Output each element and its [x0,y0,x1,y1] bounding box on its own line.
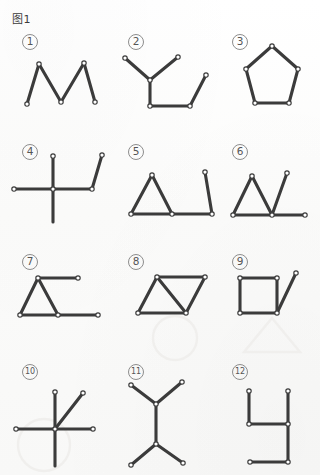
vertex-node [303,213,307,217]
match-stick [246,46,272,69]
vertex-node [231,213,235,217]
vertex-node [100,153,104,157]
vertex-node [12,187,16,191]
match-stick [252,176,272,215]
vertex-node [238,276,242,280]
vertex-node [294,271,298,275]
figure-item-9 [238,271,298,315]
vertex-node [93,100,97,104]
vertex-node [129,383,133,387]
vertex-node [204,73,208,77]
match-stick [246,69,255,103]
vertex-node [286,460,290,464]
vertex-node [123,56,127,60]
vertex-node [14,427,18,431]
match-stick [84,63,95,102]
vertex-node [59,100,63,104]
figure-item-7 [18,276,100,317]
match-stick [61,63,84,102]
vertex-node [18,313,22,317]
match-stick [27,64,39,104]
match-stick [272,46,298,69]
vertex-node [129,212,133,216]
vertex-node [91,427,95,431]
figure-label-10: 10 [22,364,38,380]
vertex-node [210,212,214,216]
figure-item-5 [129,170,214,216]
vertex-node [203,170,207,174]
match-stick [38,278,58,315]
vertex-node [36,276,40,280]
match-stick [20,278,38,315]
vertex-node [188,104,192,108]
match-stick [289,69,298,103]
match-stick [156,444,183,463]
match-stick [150,57,178,80]
vertex-node [253,101,257,105]
match-stick [131,444,156,465]
vertex-node [287,101,291,105]
vertex-node [238,311,242,315]
match-stick [277,273,296,313]
figure-label-8: 8 [128,254,144,270]
vertex-node [25,102,29,106]
vertex-node [170,212,174,216]
page-title: 图1 [12,10,31,26]
match-stick [205,172,212,214]
vertex-node [181,461,185,465]
figure-label-11: 11 [128,364,144,380]
vertex-node [82,61,86,65]
figure-label-1: 1 [22,34,38,50]
vertex-node [154,442,158,446]
figure-label-5: 5 [128,144,144,160]
vertex-node [203,275,207,279]
vertex-node [154,402,158,406]
figure-item-10 [14,390,95,466]
figure-item-6 [231,171,307,217]
vertex-node [296,67,300,71]
figure-item-1 [25,61,97,106]
vertex-node [148,78,152,82]
vertex-node [247,389,251,393]
figure-label-7: 7 [22,254,38,270]
vertex-node [148,104,152,108]
match-stick [233,176,252,215]
vertex-node [286,422,290,426]
match-stick [157,277,186,313]
vertex-node [176,55,180,59]
vertex-node [81,391,85,395]
match-stick [152,175,172,214]
vertex-node [90,187,94,191]
vertex-node [270,44,274,48]
match-stick [125,58,150,80]
match-stick [131,175,152,214]
match-stick [156,382,182,404]
figure-label-2: 2 [128,34,144,50]
figure-item-8 [136,275,207,315]
match-stick [190,75,206,106]
vertex-node [250,174,254,178]
vertex-node [248,460,252,464]
vertex-node [136,311,140,315]
figures-layer [0,0,320,475]
vertex-node [155,275,159,279]
vertex-node [96,313,100,317]
vertex-node [286,389,290,393]
vertex-node [150,173,154,177]
figure-label-4: 4 [22,144,38,160]
match-stick [272,173,287,215]
match-stick [92,155,102,189]
figure-item-11 [129,380,185,467]
match-stick [55,393,83,429]
vertex-node [275,276,279,280]
vertex-node [184,311,188,315]
vertex-node [76,276,80,280]
vertex-node [53,390,57,394]
figure-label-12: 12 [232,364,248,380]
vertex-node [180,380,184,384]
vertex-node [129,463,133,467]
figure-label-9: 9 [232,254,248,270]
match-stick [39,64,61,102]
figure-label-3: 3 [232,34,248,50]
vertex-node [51,154,55,158]
